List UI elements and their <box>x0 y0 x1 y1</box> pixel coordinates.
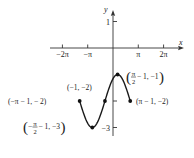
right-paren: ) <box>61 119 66 136</box>
point-label-rest: − 1, −1 <box>137 72 159 81</box>
fraction-denominator: 2 <box>132 78 135 85</box>
point-label-fraction: (−π2 − 1, −3) <box>23 119 66 136</box>
y-tick-label: −3 <box>101 124 110 133</box>
data-point <box>78 99 82 103</box>
y-tick-label: 1 <box>106 18 110 27</box>
y-axis-label: y <box>103 5 108 14</box>
point-label: (−π − 1, − 2) <box>8 97 47 106</box>
data-point <box>116 73 120 77</box>
data-point <box>90 126 94 130</box>
x-tick-label: π <box>136 50 140 59</box>
point-label: (−1, −2) <box>67 83 92 92</box>
labeled-points: (−π − 1, − 2)(−π2 − 1, −3)(−1, −2)(π2 − … <box>8 69 169 136</box>
x-tick-label: −π <box>83 50 92 59</box>
x-axis-label: x <box>178 38 183 47</box>
data-point <box>103 99 107 103</box>
x-tick-label: 2π <box>160 50 168 59</box>
point-label-fraction: (π2 − 1, −1) <box>126 69 164 86</box>
data-point <box>128 99 132 103</box>
svg-text:−: − <box>28 122 32 131</box>
right-paren: ) <box>159 69 164 86</box>
function-graph: x y −2π−ππ2π 1−3 (−π − 1, − 2)(−π2 − 1, … <box>0 0 194 158</box>
point-label: (π − 1, −2) <box>136 97 169 106</box>
fraction-numerator: π <box>33 120 37 128</box>
point-label-rest: − 1, −3 <box>39 122 61 131</box>
x-ticks: −2π−ππ2π <box>56 45 167 60</box>
x-tick-label: −2π <box>56 50 69 59</box>
y-ticks: 1−3 <box>101 18 117 133</box>
fraction-denominator: 2 <box>33 128 36 135</box>
fraction-numerator: π <box>132 70 136 78</box>
left-paren: ( <box>126 69 131 86</box>
